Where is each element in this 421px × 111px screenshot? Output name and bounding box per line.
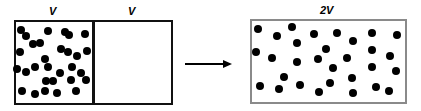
particle-before <box>68 63 76 71</box>
particle-before <box>73 52 81 60</box>
particle-before <box>16 48 24 56</box>
particle-after <box>288 23 296 31</box>
particle-before <box>67 76 75 84</box>
particle-after <box>280 73 288 81</box>
particle-before <box>53 89 61 97</box>
particle-after <box>368 46 376 54</box>
particle-after <box>293 58 301 66</box>
particle-after <box>385 87 393 95</box>
particle-before <box>49 77 57 85</box>
particle-after <box>368 63 376 71</box>
particle-after <box>368 29 376 37</box>
particle-after <box>349 89 357 97</box>
particle-after <box>386 52 394 60</box>
particle-before <box>22 68 30 76</box>
particle-after <box>254 25 262 33</box>
label-expanded-volume: 2V <box>320 4 333 16</box>
particle-before <box>36 39 44 47</box>
particle-after <box>393 31 401 39</box>
particle-before <box>41 55 49 63</box>
particle-after <box>349 37 357 45</box>
particle-after <box>273 32 281 40</box>
particle-before <box>13 65 21 73</box>
particle-after <box>326 79 334 87</box>
particle-before <box>18 87 26 95</box>
particle-after <box>310 30 318 38</box>
particle-before <box>82 76 90 84</box>
particle-after <box>252 48 260 56</box>
particle-after <box>315 88 323 96</box>
particle-after <box>314 55 322 63</box>
particle-after <box>256 82 264 90</box>
label-left-volume: V <box>49 5 56 17</box>
particle-before <box>22 32 30 40</box>
partition-wall <box>92 20 95 105</box>
particle-after <box>392 67 400 75</box>
particle-after <box>275 85 283 93</box>
particle-before <box>31 63 39 71</box>
particle-after <box>322 45 330 53</box>
particle-after <box>333 29 341 37</box>
particle-before <box>83 47 91 55</box>
particle-before <box>44 63 52 71</box>
particle-after <box>343 54 351 62</box>
particle-before <box>56 69 64 77</box>
particle-after <box>372 83 380 91</box>
particle-after <box>293 39 301 47</box>
particle-before <box>44 27 52 35</box>
particle-after <box>329 64 337 72</box>
particle-before <box>81 30 89 38</box>
particle-before <box>64 48 72 56</box>
arrow-right-icon <box>185 59 232 69</box>
particle-after <box>348 74 356 82</box>
particle-after <box>268 54 276 62</box>
particle-before <box>31 90 39 98</box>
particle-before <box>41 87 49 95</box>
particle-before <box>65 31 73 39</box>
label-right-volume: V <box>128 5 135 17</box>
particle-before <box>72 87 80 95</box>
particle-after <box>296 81 304 89</box>
